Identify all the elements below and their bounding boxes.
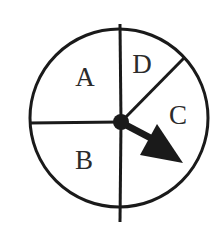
spoke-left <box>29 122 121 123</box>
spinner-hub[interactable] <box>113 114 129 130</box>
spoke-up <box>120 24 121 122</box>
sector-label-c: C <box>169 100 187 130</box>
spoke-down <box>120 122 121 222</box>
sector-label-b: B <box>75 145 93 175</box>
sector-label-a: A <box>75 62 95 92</box>
sector-label-d: D <box>132 49 152 79</box>
spinner-diagram: A B C D <box>0 0 221 228</box>
figure-background <box>0 0 221 228</box>
